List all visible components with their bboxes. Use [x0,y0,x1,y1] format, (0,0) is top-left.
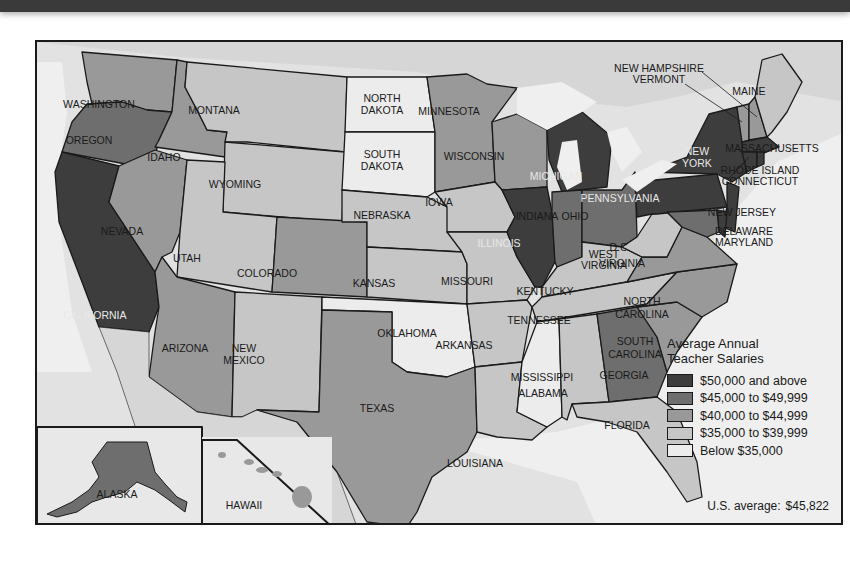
legend-swatch-tier3 [667,409,693,422]
legend: Average Annual Teacher Salaries $50,000 … [667,336,842,460]
legend-label: $40,000 to $44,999 [700,409,808,423]
legend-swatch-tier4 [667,427,693,440]
legend-title-line-2: Teacher Salaries [667,351,842,366]
state-indiana[interactable] [552,190,582,267]
legend-label: $45,000 to $49,999 [700,391,808,405]
label-missouri: MISSOURI [441,275,493,287]
label-georgia: GEORGIA [599,369,648,381]
header-band [0,0,850,12]
label-washington: WASHINGTON [63,98,135,110]
label-utah: UTAH [173,252,201,264]
label-kansas: KANSAS [353,277,396,289]
label-maine: MAINE [732,85,765,97]
legend-label: Below $35,000 [700,444,783,458]
label-maryland: MARYLAND [715,236,774,248]
label-colorado: COLORADO [237,267,297,279]
label-arizona: ARIZONA [162,342,209,354]
label-minnesota: MINNESOTA [418,105,480,117]
label-alabama: ALABAMA [518,387,568,399]
legend-label: $35,000 to $39,999 [700,426,808,440]
label-oregon: OREGON [66,134,113,146]
legend-item-tier5: Below $35,000 [667,442,842,460]
label-new-york-1: NEW [685,145,710,157]
legend-swatch-tier1 [667,374,693,387]
label-new-mexico-1: NEW [232,342,257,354]
label-wyoming: WYOMING [209,178,262,190]
state-arkansas[interactable] [467,300,532,367]
label-massachusetts: MASSACHUSETTS [725,142,818,154]
label-connecticut: CONNECTICUT [722,175,799,187]
label-illinois: ILLINOIS [477,237,520,249]
label-nevada: NEVADA [101,225,143,237]
legend-item-tier1: $50,000 and above [667,372,842,390]
label-florida: FLORIDA [604,419,650,431]
legend-item-tier4: $35,000 to $39,999 [667,425,842,443]
legend-title: Average Annual Teacher Salaries [667,336,842,366]
label-north-carolina-2: CAROLINA [615,308,669,320]
legend-item-tier3: $40,000 to $44,999 [667,407,842,425]
us-average: U.S. average:$45,822 [707,499,829,513]
salary-map: WASHINGTON OREGON CALIFORNIA IDAHO NEVAD… [35,40,843,525]
legend-swatch-tier5 [667,444,693,457]
label-iowa: IOWA [425,196,453,208]
label-north-carolina-1: NORTH [623,295,660,307]
label-idaho: IDAHO [147,151,180,163]
label-new-jersey: NEW JERSEY [708,206,776,218]
hawaii-inset [202,437,332,525]
label-mississippi: MISSISSIPPI [511,371,573,383]
label-california: CALIFORNIA [63,309,126,321]
label-nebraska: NEBRASKA [353,209,410,221]
legend-title-line-1: Average Annual [667,336,842,351]
label-wisconsin: WISCONSIN [444,150,505,162]
label-north-dakota-1: NORTH [363,92,400,104]
label-oklahoma: OKLAHOMA [377,327,437,339]
label-alaska: ALASKA [97,488,138,500]
label-arkansas: ARKANSAS [435,339,492,351]
label-indiana: INDIANA [516,210,559,222]
us-average-label: U.S. average: [707,499,780,513]
label-montana: MONTANA [188,104,240,116]
label-michigan: MICHIGAN [530,170,583,182]
label-tennessee: TENNESSEE [507,314,571,326]
label-west-virginia-2: VIRGINIA [581,259,627,271]
label-new-york-2: YORK [682,157,712,169]
label-dc: D.C. [610,241,631,253]
label-kentucky: KENTUCKY [516,285,573,297]
label-hawaii: HAWAII [226,499,263,511]
label-vermont: VERMONT [633,73,686,85]
label-ohio: OHIO [562,210,589,222]
legend-label: $50,000 and above [700,374,807,388]
legend-item-tier2: $45,000 to $49,999 [667,390,842,408]
label-south-carolina-1: SOUTH [617,335,654,347]
label-new-mexico-2: MEXICO [223,354,264,366]
label-south-carolina-2: CAROLINA [608,348,662,360]
label-north-dakota-2: DAKOTA [361,104,403,116]
label-pennsylvania: PENNSYLVANIA [581,192,660,204]
label-south-dakota-1: SOUTH [364,148,401,160]
legend-swatch-tier2 [667,392,693,405]
us-average-value: $45,822 [786,499,829,513]
label-louisiana: LOUISIANA [447,457,503,469]
label-texas: TEXAS [360,402,394,414]
label-south-dakota-2: DAKOTA [361,160,403,172]
